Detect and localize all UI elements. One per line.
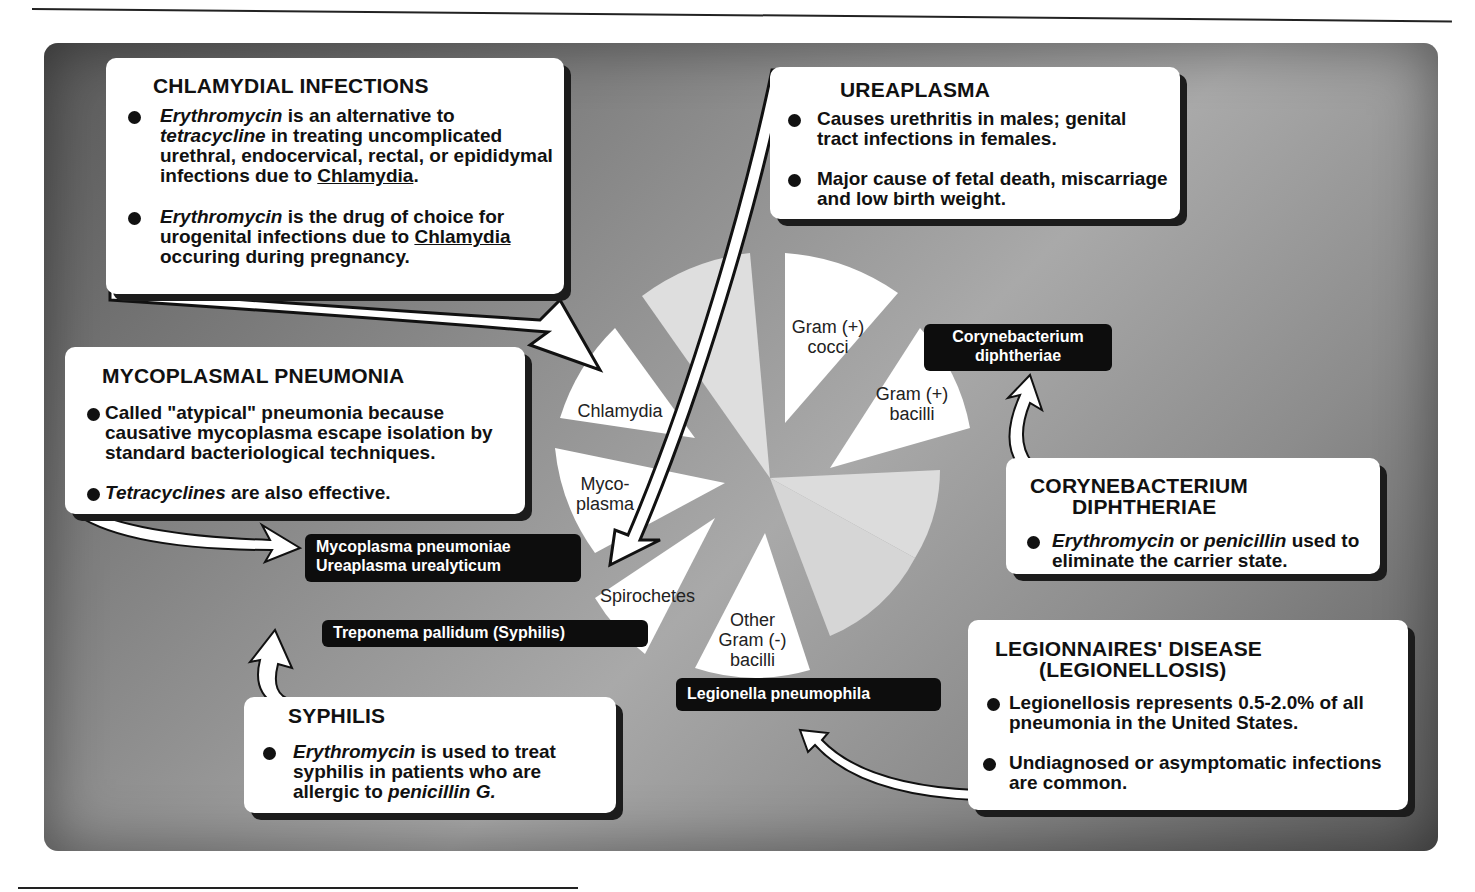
box-chlamydial-infections: CHLAMYDIAL INFECTIONS Erythromycin is an… (106, 58, 564, 294)
bullet-item: Tetracyclines are also effective. (105, 483, 525, 503)
slice-label-chlamydia: Chlamydia (565, 401, 675, 421)
bullet-item: Legionellosis represents 0.5-2.0% of all… (1009, 693, 1407, 733)
bullet-icon (987, 698, 1000, 711)
box-ureaplasma: UREAPLASMA Causes urethritis in males; g… (770, 67, 1180, 219)
bullet-item: Causes urethritis in males; genital trac… (817, 109, 1172, 149)
slice-label-mycoplasma: Myco-plasma (560, 474, 650, 514)
box-title: UREAPLASMA (840, 79, 990, 100)
tag-treponema: Treponema pallidum (Syphilis) (322, 620, 648, 647)
box-title: SYPHILIS (288, 705, 385, 726)
bullet-icon (87, 408, 100, 421)
arrow-coryne (1008, 375, 1042, 465)
box-title: MYCOPLASMAL PNEUMONIA (102, 365, 405, 386)
bullet-icon (1027, 536, 1040, 549)
box-corynebacterium-diphtheriae: CORYNEBACTERIUM DIPHTHERIAE Erythromycin… (1006, 458, 1380, 574)
bullet-item: Undiagnosed or asymptomatic infections a… (1009, 753, 1407, 793)
bullet-item: Erythromycin is an alternative totetracy… (160, 106, 560, 186)
box-syphilis: SYPHILIS Erythromycin is used to treat s… (244, 697, 616, 813)
slice-label-gram-pos-bacilli: Gram (+)bacilli (862, 384, 962, 424)
box-title: CHLAMYDIAL INFECTIONS (153, 75, 429, 96)
bullet-item: Major cause of fetal death, miscarriage … (817, 169, 1172, 209)
arrow-legion (800, 730, 975, 800)
slice-label-other-gram-neg-bacilli: OtherGram (-)bacilli (705, 610, 800, 670)
box-title: LEGIONNAIRES' DISEASE (LEGIONELLOSIS) (995, 638, 1262, 680)
slice-label-gram-pos-cocci: Gram (+)cocci (778, 317, 878, 357)
bullet-item: Erythromycin is used to treat syphilis i… (293, 742, 608, 802)
tag-mycoplasma-ureaplasma: Mycoplasma pneumoniaeUreaplasma urealyti… (305, 534, 581, 582)
bullet-icon (263, 747, 276, 760)
bullet-icon (128, 111, 141, 124)
box-mycoplasmal-pneumonia: MYCOPLASMAL PNEUMONIA Called "atypical" … (65, 347, 525, 514)
bullet-item: Erythromycin is the drug of choice for u… (160, 207, 560, 267)
box-legionnaires-disease: LEGIONNAIRES' DISEASE (LEGIONELLOSIS) Le… (968, 620, 1408, 810)
bullet-icon (128, 212, 141, 225)
slice-label-spirochetes: Spirochetes (590, 586, 705, 606)
bullet-item: Called "atypical" pneumonia because caus… (105, 403, 525, 463)
tag-corynebacterium: Corynebacteriumdiphtheriae (924, 324, 1112, 371)
bullet-icon (87, 488, 100, 501)
box-title: CORYNEBACTERIUM DIPHTHERIAE (1030, 475, 1248, 517)
bullet-icon (788, 174, 801, 187)
bullet-item: Erythromycin or penicillin used to elimi… (1052, 531, 1377, 571)
bullet-icon (788, 114, 801, 127)
tag-legionella: Legionella pneumophila (676, 678, 941, 711)
bullet-icon (983, 758, 996, 771)
